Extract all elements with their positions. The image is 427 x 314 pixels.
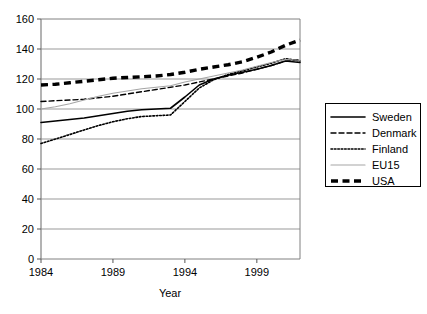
legend-label-finland: Finland: [372, 143, 408, 155]
y-axis: 020406080100120140160: [16, 13, 41, 265]
y-tick-label: 0: [28, 253, 34, 265]
x-tick-label: 1994: [173, 266, 197, 278]
chart-canvas: 020406080100120140160 1984198919941999 Y…: [0, 0, 427, 314]
line-chart: 020406080100120140160 1984198919941999 Y…: [0, 0, 427, 314]
y-tick-label: 40: [22, 193, 34, 205]
y-tick-label: 100: [16, 103, 34, 115]
legend-label-sweden: Sweden: [372, 111, 412, 123]
x-tick-label: 1989: [101, 266, 125, 278]
y-tick-label: 20: [22, 223, 34, 235]
legend-label-usa: USA: [372, 175, 395, 187]
chart-legend: SwedenDenmarkFinlandEU15USA: [326, 104, 421, 188]
x-axis: 1984198919941999: [29, 259, 269, 278]
y-tick-label: 120: [16, 73, 34, 85]
y-tick-label: 140: [16, 43, 34, 55]
y-tick-label: 160: [16, 13, 34, 25]
x-tick-label: 1984: [29, 266, 53, 278]
x-tick-label: 1999: [245, 266, 269, 278]
x-axis-title: Year: [159, 287, 182, 299]
y-tick-label: 80: [22, 133, 34, 145]
legend-label-eu15: EU15: [372, 159, 400, 171]
legend-label-denmark: Denmark: [372, 127, 417, 139]
y-tick-label: 60: [22, 163, 34, 175]
